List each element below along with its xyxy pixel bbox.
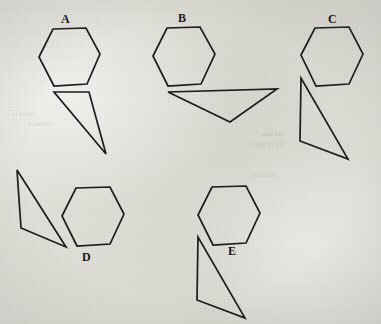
figure-label-a: A — [61, 13, 70, 25]
figure-b — [153, 27, 277, 122]
figure-label-e: E — [228, 245, 236, 257]
triangle-d — [17, 170, 66, 247]
hexagon-e — [198, 186, 260, 245]
scanned-page: eranigilsumenosab eursubukses rasensunur… — [0, 0, 381, 324]
triangle-c — [300, 78, 348, 159]
figure-label-c: C — [328, 13, 337, 25]
figure-d — [17, 170, 124, 247]
hexagon-a — [39, 28, 100, 86]
triangle-a — [54, 92, 106, 154]
hexagon-c — [301, 27, 363, 86]
figure-collection — [0, 0, 381, 324]
hexagon-b — [153, 27, 215, 86]
figure-a — [39, 28, 106, 154]
triangle-e — [197, 237, 245, 318]
triangle-b — [168, 89, 277, 122]
figure-c — [300, 27, 363, 159]
figure-label-b: B — [178, 12, 186, 24]
figure-label-d: D — [82, 251, 91, 263]
hexagon-d — [62, 187, 124, 246]
